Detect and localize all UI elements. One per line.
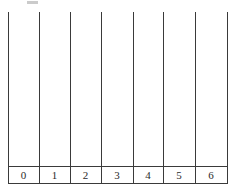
column-separator	[227, 12, 228, 184]
axis-tick-label-4: 4	[133, 167, 163, 183]
chart-plot-area: 0 1 2 3 4 5 6	[8, 12, 228, 184]
column-separator	[70, 12, 71, 184]
column-separator	[163, 12, 164, 184]
chart-baseline	[8, 183, 228, 184]
column-separator	[39, 12, 40, 184]
axis-tick-label-5: 5	[163, 167, 195, 183]
column-separator	[133, 12, 134, 184]
column-separator	[101, 12, 102, 184]
column-separator	[195, 12, 196, 184]
axis-tick-label-3: 3	[101, 167, 133, 183]
axis-tick-label-0: 0	[8, 167, 39, 183]
scan-artifact	[27, 1, 38, 4]
axis-tick-label-6: 6	[195, 167, 227, 183]
axis-tick-label-1: 1	[39, 167, 70, 183]
axis-label-row: 0 1 2 3 4 5 6	[8, 167, 228, 183]
column-separator	[8, 12, 9, 184]
chart-figure: 0 1 2 3 4 5 6	[0, 0, 242, 191]
axis-tick-label-2: 2	[70, 167, 101, 183]
